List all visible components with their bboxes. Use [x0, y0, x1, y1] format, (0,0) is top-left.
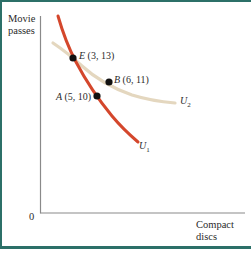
y-axis-title-line-2: passes	[8, 25, 35, 37]
origin-label: 0	[29, 211, 34, 223]
y-axis-title: Movie passes	[8, 13, 35, 37]
point-label-E-coords: (3, 13)	[88, 50, 115, 61]
point-label-A-coords: (5, 10)	[64, 91, 91, 102]
point-label-B: B (6, 11)	[114, 74, 149, 86]
plot-area	[0, 0, 251, 255]
point-label-A: A (5, 10)	[56, 91, 91, 103]
curve-label-u1: U1	[139, 140, 150, 154]
curve-label-u1-subscript: 1	[146, 146, 150, 154]
indifference-curve-figure: Movie passes Compact discs 0 E (3, 13) B…	[0, 0, 251, 255]
curve-label-u2: U2	[180, 95, 191, 109]
data-point-B	[105, 78, 112, 85]
x-axis-title: Compact discs	[196, 219, 234, 243]
y-axis-title-line-1: Movie	[8, 13, 35, 25]
x-axis-title-line-1: Compact	[196, 219, 234, 231]
point-label-A-name: A	[56, 91, 62, 102]
data-point-E	[69, 54, 76, 61]
point-label-B-name: B	[114, 74, 120, 85]
point-label-B-coords: (6, 11)	[123, 74, 149, 85]
point-label-E: E (3, 13)	[79, 50, 114, 62]
point-label-E-name: E	[79, 50, 85, 61]
x-axis-title-line-2: discs	[196, 231, 234, 243]
curve-label-u2-subscript: 2	[187, 101, 191, 109]
data-point-A	[93, 92, 100, 99]
